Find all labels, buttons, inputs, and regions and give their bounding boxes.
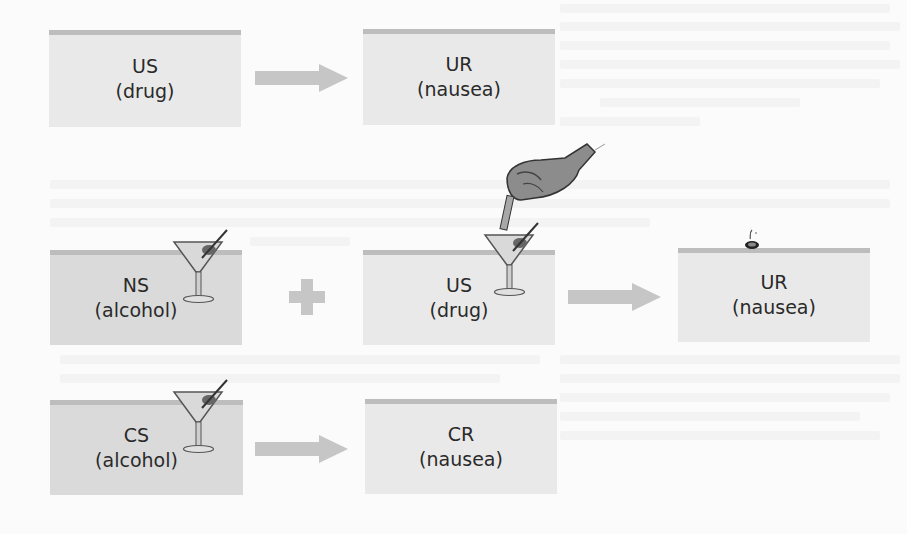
- us-drug-box-row1: US (drug): [49, 30, 241, 127]
- martini-glass-icon: [172, 378, 230, 456]
- arrow-right-icon: [255, 434, 348, 464]
- martini-glass-icon: [483, 221, 541, 299]
- us-label: (drug): [430, 298, 489, 323]
- cr-abbr: CR: [448, 422, 474, 447]
- ur-abbr: UR: [445, 52, 472, 77]
- vomit-splash-icon: [740, 227, 764, 251]
- ur-nausea-box-row2: UR (nausea): [678, 248, 870, 342]
- ur-label: (nausea): [732, 295, 816, 320]
- us-label: (drug): [116, 79, 175, 104]
- arrow-right-icon: [568, 282, 661, 312]
- cs-label: (alcohol): [95, 448, 178, 473]
- arrow-right-icon: [255, 63, 348, 93]
- plus-icon: [287, 277, 327, 317]
- ur-label: (nausea): [417, 77, 501, 102]
- cr-nausea-box: CR (nausea): [365, 399, 557, 494]
- cs-abbr: CS: [124, 423, 149, 448]
- us-abbr: US: [132, 54, 158, 79]
- ns-abbr: NS: [123, 273, 149, 298]
- ns-label: (alcohol): [95, 298, 178, 323]
- martini-glass-icon: [172, 228, 230, 306]
- hand-with-dropper-icon: [495, 140, 605, 232]
- cr-label: (nausea): [419, 447, 503, 472]
- ur-nausea-box-row1: UR (nausea): [363, 29, 555, 125]
- ur-abbr: UR: [760, 270, 787, 295]
- us-abbr: US: [446, 273, 472, 298]
